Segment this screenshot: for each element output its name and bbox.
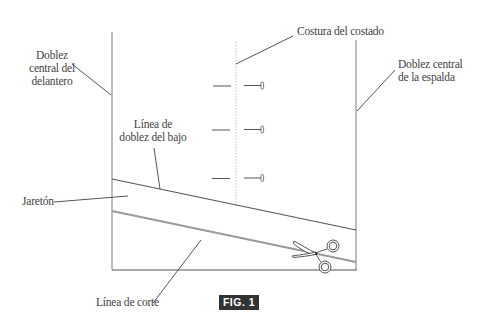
leader-hem bbox=[54, 196, 128, 202]
label-cut-line: Línea de corte bbox=[96, 296, 159, 309]
label-hem: Jaretón bbox=[22, 195, 54, 208]
label-front-fold: Doblez central del delantero bbox=[22, 49, 82, 88]
figure-1-hem-diagram: Doblez central del delantero Costura del… bbox=[0, 0, 477, 328]
label-back-fold-line-1: Doblez central bbox=[398, 58, 463, 71]
label-hem-fold-line-1: Línea de bbox=[118, 118, 188, 131]
label-side-seam: Costura del costado bbox=[297, 25, 384, 38]
label-front-fold-line-3: delantero bbox=[22, 75, 82, 88]
pin-icon bbox=[213, 82, 264, 89]
label-front-fold-line-1: Doblez bbox=[22, 49, 82, 62]
leader-hem-fold bbox=[154, 148, 160, 189]
pin-icon bbox=[212, 126, 264, 133]
leader-side-seam bbox=[236, 36, 293, 64]
figure-caption: FIG. 1 bbox=[219, 295, 259, 310]
label-back-fold-line-2: de la espalda bbox=[398, 71, 463, 84]
label-front-fold-line-2: central del bbox=[22, 62, 82, 75]
label-hem-fold-line: Línea de doblez del bajo bbox=[118, 118, 188, 144]
label-hem-fold-line-2: doblez del bajo bbox=[118, 131, 188, 144]
pin-icon bbox=[212, 175, 264, 182]
leader-back-fold bbox=[357, 70, 395, 111]
label-back-fold: Doblez central de la espalda bbox=[398, 58, 463, 84]
cut-line bbox=[112, 211, 356, 262]
leader-cut-line bbox=[153, 240, 201, 303]
hem-fold-line bbox=[112, 179, 356, 230]
